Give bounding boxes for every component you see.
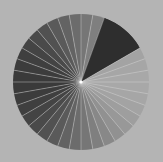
radial-dial [0,0,163,162]
dial-image: Grayscale radial dial with thin white sp… [0,0,163,162]
center-dot [79,80,82,83]
